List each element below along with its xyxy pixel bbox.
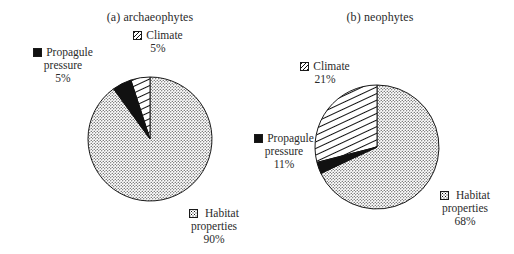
label-b-propagule-line2: pressure [234, 145, 334, 158]
label-b-habitat-line2: properties [416, 202, 514, 215]
pie-chart-figure: (a) archaeophytes (b) neophytes Climate … [0, 0, 514, 254]
label-b-climate-text: Climate [313, 60, 349, 72]
label-b-habitat-line1: Habitat [456, 189, 490, 201]
label-b-habitat: Habitat properties 68% [416, 189, 514, 228]
panel-b-title: (b) neophytes [290, 10, 470, 25]
solid-black-square-icon [33, 48, 42, 57]
label-a-climate: Climate 5% [112, 29, 204, 55]
label-b-climate: Climate 21% [280, 60, 370, 86]
pie-chart-a [86, 75, 214, 203]
label-a-propagule-line2: pressure [14, 59, 112, 72]
dotted-square-icon [440, 191, 449, 200]
label-a-propagule: Propagule pressure 5% [14, 46, 112, 85]
label-b-propagule: Propagule pressure 11% [234, 132, 334, 171]
dotted-square-icon [189, 209, 198, 218]
label-b-propagule-line1: Propagule [267, 132, 314, 144]
label-b-climate-pct: 21% [280, 73, 370, 86]
label-b-propagule-pct: 11% [234, 158, 334, 171]
label-a-propagule-line1: Propagule [46, 46, 93, 58]
label-b-habitat-pct: 68% [416, 215, 514, 228]
hatched-square-icon [300, 62, 309, 71]
panel-a-title: (a) archaeophytes [60, 10, 240, 25]
label-a-climate-pct: 5% [112, 42, 204, 55]
label-a-habitat-pct: 90% [162, 233, 266, 246]
label-a-propagule-pct: 5% [14, 72, 112, 85]
label-a-habitat: Habitat properties 90% [162, 207, 266, 246]
solid-black-square-icon [254, 134, 263, 143]
label-a-climate-text: Climate [146, 29, 182, 41]
label-a-habitat-line1: Habitat [205, 207, 239, 219]
label-a-habitat-line2: properties [162, 220, 266, 233]
hatched-square-icon [133, 31, 142, 40]
